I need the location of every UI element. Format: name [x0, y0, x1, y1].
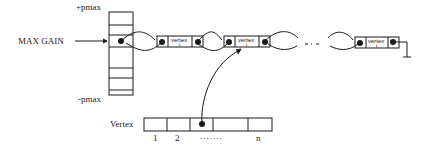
- node-sublabel: i: [376, 43, 377, 49]
- null-terminator: [393, 42, 407, 57]
- pmax-top-label: +pmax: [76, 3, 101, 12]
- vertex-array: [144, 118, 272, 131]
- pmax-bottom-label: -pmax: [78, 95, 101, 104]
- index-ellipsis: .......: [200, 132, 223, 141]
- index-label: 1: [153, 134, 158, 143]
- vertex-array-label: Vertex: [110, 120, 134, 129]
- vertex-pointer: [202, 50, 240, 124]
- bucket-array: [109, 12, 133, 95]
- index-label: n: [256, 134, 261, 143]
- index-label: 2: [175, 134, 180, 143]
- node-sublabel: i: [246, 42, 247, 48]
- node-sublabel: i: [179, 42, 180, 48]
- max-gain-label: MAX GAIN: [18, 37, 64, 46]
